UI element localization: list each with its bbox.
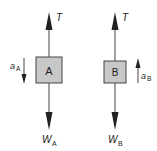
accel-b-subscript: B <box>147 75 151 82</box>
free-body-diagram: A T W A a A B T W B a B <box>0 0 157 151</box>
accel-a-subscript: A <box>16 65 21 72</box>
weight-a-subscript: A <box>52 140 57 147</box>
tension-a-label: T <box>56 12 63 23</box>
weight-arrow-a-icon <box>46 112 53 130</box>
block-b-diagram: B T W B a B <box>104 12 151 147</box>
block-a-label: A <box>45 65 53 77</box>
tension-arrow-a-icon <box>46 12 53 30</box>
block-b-label: B <box>112 67 119 78</box>
block-a-diagram: A T W A a A <box>10 12 63 147</box>
accel-arrow-a-icon <box>22 74 27 84</box>
accel-b-label: a <box>141 71 146 81</box>
weight-arrow-b-icon <box>112 112 119 130</box>
accel-a-label: a <box>10 61 15 71</box>
tension-arrow-b-icon <box>112 12 119 30</box>
weight-b-subscript: B <box>118 140 123 147</box>
tension-b-label: T <box>122 12 129 23</box>
accel-arrow-b-icon <box>136 58 141 68</box>
